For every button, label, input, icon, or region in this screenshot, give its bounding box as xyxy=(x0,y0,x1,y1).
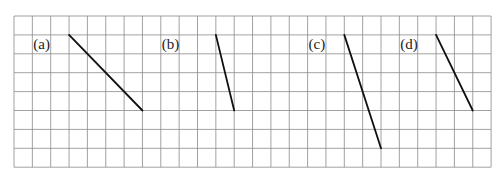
segment-labels: (a)(b)(c)(d) xyxy=(33,36,418,53)
label-d: (d) xyxy=(400,36,418,53)
label-b: (b) xyxy=(162,36,180,53)
label-a: (a) xyxy=(33,36,50,53)
label-c: (c) xyxy=(309,36,326,53)
grid-lines xyxy=(14,16,491,167)
grid-diagram: (a)(b)(c)(d) xyxy=(0,0,500,175)
